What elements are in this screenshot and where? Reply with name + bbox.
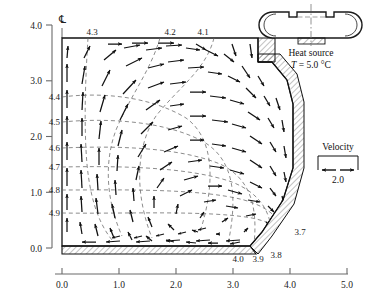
y-tick-label-3: 3.0 <box>30 76 42 86</box>
figure-root: 4.0 3.0 2.0 1.0 0.0 0.0 1.0 2.0 3.0 4.0 … <box>0 0 378 299</box>
contour-label-3-7: 3.7 <box>294 227 306 237</box>
velocity-vector-figure: 4.0 3.0 2.0 1.0 0.0 0.0 1.0 2.0 3.0 4.0 … <box>0 0 378 299</box>
x-tick-label-3: 3.0 <box>227 280 239 290</box>
velocity-legend-title: Velocity <box>322 142 354 152</box>
inset-caption-temperature: T = 5.0 °C <box>291 60 331 70</box>
inset-vessel-outline <box>259 12 362 38</box>
velocity-legend-value: 2.0 <box>332 175 344 185</box>
bottom-wall <box>62 246 256 254</box>
contour-label-4-4: 4.4 <box>49 92 61 102</box>
contour-label-4-1: 4.1 <box>197 27 208 37</box>
y-tick-label-2: 2.0 <box>30 132 42 142</box>
y-tick-label-1: 1.0 <box>30 188 42 198</box>
contour-label-4-2: 4.2 <box>164 27 175 37</box>
y-tick-label-0: 0.0 <box>30 244 42 254</box>
inset-heat-source-block <box>298 38 325 44</box>
inset-temp-value: = 5.0 °C <box>296 60 331 70</box>
x-tick-label-2: 2.0 <box>170 280 182 290</box>
contour-label-4-7: 4.7 <box>49 162 61 172</box>
x-tick-label-5: 5.0 <box>341 280 353 290</box>
contour-label-4-0: 4.0 <box>232 254 244 264</box>
contour-label-3-8: 3.8 <box>270 250 282 260</box>
centerline-symbol: ℄ <box>58 13 66 25</box>
x-tick-label-4: 4.0 <box>284 280 296 290</box>
x-tick-label-1: 1.0 <box>113 280 125 290</box>
contour-label-4-5: 4.5 <box>49 117 61 127</box>
inset-caption-heat-source: Heat source <box>288 48 333 58</box>
contour-label-3-9: 3.9 <box>252 254 264 264</box>
x-tick-label-0: 0.0 <box>56 280 68 290</box>
y-tick-label-4: 4.0 <box>30 21 42 31</box>
contour-label-4-8: 4.8 <box>49 185 61 195</box>
contour-label-4-6: 4.6 <box>49 143 61 153</box>
contour-label-4-3: 4.3 <box>86 27 98 37</box>
contour-label-4-9: 4.9 <box>49 208 61 218</box>
